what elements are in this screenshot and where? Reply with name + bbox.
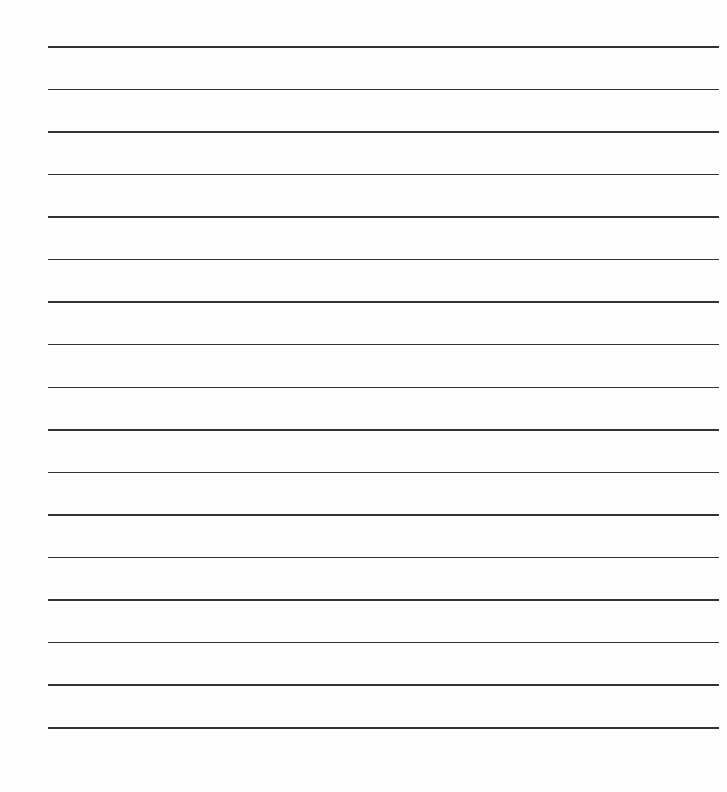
lined-paper-page	[0, 0, 727, 792]
ruled-line	[48, 642, 719, 644]
ruled-line	[48, 599, 719, 601]
ruled-line	[48, 344, 719, 346]
ruled-line	[48, 387, 719, 389]
ruled-line	[48, 557, 719, 559]
ruled-line	[48, 131, 719, 133]
ruled-line	[48, 429, 719, 431]
ruled-line	[48, 514, 719, 516]
ruled-line	[48, 727, 719, 729]
ruled-line	[48, 472, 719, 474]
ruled-line	[48, 684, 719, 686]
ruled-line	[48, 46, 719, 48]
ruled-line	[48, 89, 719, 91]
ruled-line	[48, 259, 719, 261]
ruled-line	[48, 174, 719, 176]
ruled-line	[48, 216, 719, 218]
ruled-line	[48, 301, 719, 303]
